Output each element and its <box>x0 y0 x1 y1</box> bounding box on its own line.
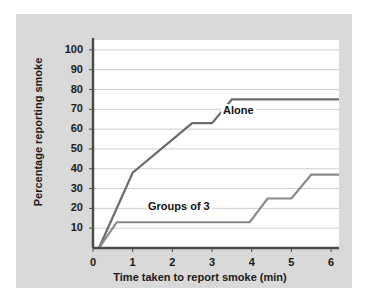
data-series-group <box>99 99 339 248</box>
xtick-label: 5 <box>281 257 301 268</box>
xtick-label: 3 <box>202 257 222 268</box>
figure-container: 102030405060708090100 0123456 Percentage… <box>0 0 368 303</box>
ytick-label: 20 <box>55 202 83 213</box>
xtick-label: 4 <box>242 257 262 268</box>
ytick-label: 50 <box>55 143 83 154</box>
ytick-label: 40 <box>55 163 83 174</box>
gridlines-group <box>93 50 339 228</box>
ytick-label: 60 <box>55 123 83 134</box>
ytick-label: 80 <box>55 84 83 95</box>
series-label-groups-of-3: Groups of 3 <box>146 200 212 212</box>
xtick-label: 0 <box>83 257 103 268</box>
series-line-alone <box>99 99 339 248</box>
xtick-label: 6 <box>321 257 341 268</box>
ytick-label: 100 <box>55 44 83 55</box>
series-line-groups-of-3 <box>99 175 339 248</box>
ytick-label: 10 <box>55 222 83 233</box>
xtick-label: 2 <box>162 257 182 268</box>
ytick-label: 90 <box>55 64 83 75</box>
x-axis-title: Time taken to report smoke (min) <box>60 271 340 283</box>
ytick-label: 70 <box>55 103 83 114</box>
series-label-alone: Alone <box>221 104 256 116</box>
ytick-label: 30 <box>55 183 83 194</box>
y-axis-title: Percentage reporting smoke <box>32 32 44 232</box>
xtick-label: 1 <box>123 257 143 268</box>
